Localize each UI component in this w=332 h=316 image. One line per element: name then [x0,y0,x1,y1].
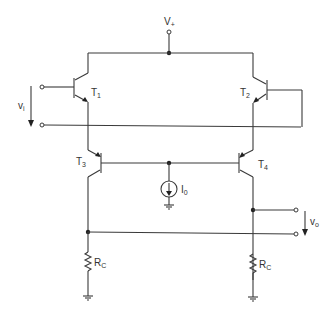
transistor-t3: T3 [76,150,101,232]
output-line-bottom [88,232,294,234]
input-terminal-top [40,85,74,89]
svg-text:T1: T1 [91,87,101,99]
transistor-t1: T1 [74,53,101,150]
resistor-rc-left: RC [83,232,106,300]
svg-text:RC: RC [259,259,271,271]
svg-text:T3: T3 [76,156,86,168]
transistor-t2: T2 [240,53,302,150]
svg-text:vo: vo [310,216,319,228]
resistor-rc-right: RC [248,254,271,301]
supply-terminal: V+ [164,16,175,55]
svg-text:vi: vi [18,100,25,112]
svg-text:T2: T2 [240,87,250,99]
output-voltage-arrow: vo [302,211,319,236]
svg-text:V+: V+ [164,16,175,28]
svg-text:RC: RC [94,257,106,269]
svg-text:T4: T4 [258,159,268,171]
svg-text:I0: I0 [181,184,188,196]
input-terminal-bottom [40,123,301,127]
circuit-diagram: V+ T1 vi T2 [0,0,332,316]
current-source-i0: I0 [161,163,188,209]
input-voltage-arrow: vi [18,86,34,127]
